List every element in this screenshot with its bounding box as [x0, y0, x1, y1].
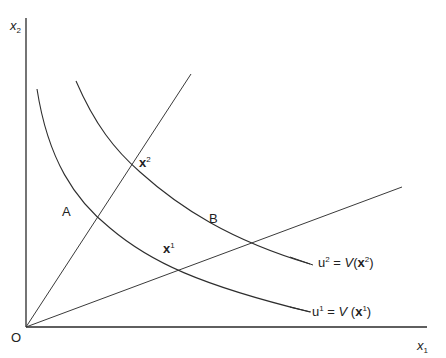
indifference-curve-u1	[37, 89, 310, 312]
point-B-label: B	[209, 211, 218, 226]
point-A-label: A	[62, 204, 71, 219]
u1-leader-line	[290, 307, 311, 312]
origin-label: O	[11, 330, 21, 345]
curve-u2-label: u2 = V(x2)	[318, 255, 374, 270]
ray-through-x2	[26, 74, 191, 327]
y-axis-label: x2	[9, 18, 22, 35]
indifference-curve-diagram: x2 x1 O A B x2 x1 u2 = V(x2) u1 = V (x1)	[0, 0, 446, 358]
indifference-curve-u2	[76, 81, 310, 264]
u2-leader-line	[290, 257, 313, 265]
point-x2-label: x2	[139, 155, 151, 170]
curve-u1-label: u1 = V (x1)	[312, 304, 371, 319]
x-axis-label: x1	[416, 338, 429, 355]
point-x1-label: x1	[163, 241, 175, 256]
